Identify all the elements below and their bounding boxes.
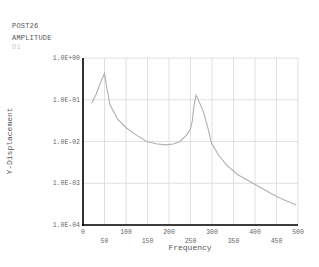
y-tick-label: 1.0E-03 (53, 180, 80, 187)
y-tick-label: 1.0E-04 (53, 222, 80, 229)
response-curve (92, 73, 297, 205)
x-tick-label: 150 (142, 238, 154, 245)
x-tick-label: 350 (228, 238, 240, 245)
y-tick-label: 1.0E-02 (53, 139, 80, 146)
y-axis-label: Y-Displacement (5, 107, 14, 174)
x-tick-label: 50 (101, 238, 109, 245)
grid-lines (83, 58, 298, 225)
x-tick-label: 200 (163, 229, 175, 236)
x-tick-label: 300 (206, 229, 218, 236)
y-tick-label: 1.0E+00 (53, 55, 80, 62)
x-tick-label: 450 (271, 238, 283, 245)
x-tick-label: 0 (81, 229, 85, 236)
x-axis-label: Frequency (168, 243, 211, 252)
y-tick-label: 1.0E-01 (53, 97, 80, 104)
x-tick-label: 100 (120, 229, 132, 236)
x-tick-label: 400 (249, 229, 261, 236)
x-tick-label: 500 (292, 229, 304, 236)
amplitude-plot: 1.0E+001.0E-011.0E-021.0E-031.0E-04 0501… (0, 0, 319, 267)
y-tick-labels: 1.0E+001.0E-011.0E-021.0E-031.0E-04 (53, 55, 80, 229)
